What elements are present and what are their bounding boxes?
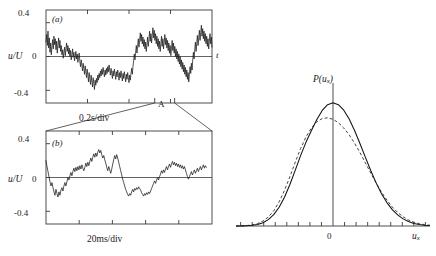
- panel-a-ytick-mid: 0: [32, 51, 37, 61]
- panel-a-group: [46, 10, 212, 103]
- panel-b-group: [46, 131, 212, 224]
- pdf-ylabel-close: ): [330, 74, 333, 84]
- figure-canvas: [0, 0, 436, 256]
- panel-b-ytick-top: 0.4: [18, 134, 29, 144]
- panel-b-ytick-bot: -0.4: [14, 208, 28, 218]
- panel-a-trace: [46, 25, 212, 89]
- zoom-connector-right: [175, 103, 212, 131]
- pdf-panel-group: [236, 83, 430, 226]
- panel-b-ylabel: u/U: [8, 174, 22, 184]
- pdf-ylabel: P(ux): [313, 74, 333, 84]
- panel-a-ylabel: u/U: [8, 51, 22, 61]
- pdf-xlabel-sub: x: [417, 234, 420, 241]
- panel-b-xlabel: 20ms/div: [87, 234, 122, 244]
- pdf-xlabel: ux: [412, 231, 420, 241]
- panel-a-tag: (a): [52, 14, 63, 24]
- panel-b-ytick-mid: 0: [32, 174, 37, 184]
- panel-a-time-axis-label: t: [216, 50, 219, 60]
- pdf-xtick-zero: 0: [327, 231, 332, 241]
- panel-b-tag: (b): [52, 138, 63, 148]
- region-a-label: A: [158, 99, 165, 109]
- panel-a-ytick-bot: -0.4: [14, 88, 28, 98]
- panel-a-xlabel: 0.2s/div: [79, 113, 109, 123]
- panel-a-ytick-top: 0.4: [18, 8, 29, 18]
- figure-root: (a) u/U 0.4 0 -0.4 t A 0.2s/div (b) u/U …: [0, 0, 436, 256]
- pdf-ylabel-main: P(u: [313, 74, 327, 84]
- panel-b-trace: [46, 150, 206, 197]
